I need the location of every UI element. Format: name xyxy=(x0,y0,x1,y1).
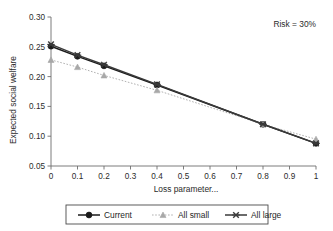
series-all-large xyxy=(47,42,320,147)
legend-label: All small xyxy=(178,210,209,220)
data-point-marker xyxy=(154,87,160,93)
chart-canvas: 0.050.100.150.200.250.30 00.10.20.30.40.… xyxy=(0,0,333,231)
y-axis-ticks: 0.050.100.150.200.250.30 xyxy=(29,13,51,171)
axes-group xyxy=(51,17,316,166)
x-tick-label: 0.9 xyxy=(284,172,296,181)
data-point-marker xyxy=(48,57,54,63)
y-tick-label: 0.15 xyxy=(29,102,45,111)
x-tick-label: 1 xyxy=(314,172,319,181)
data-series-group xyxy=(47,42,320,147)
y-tick-label: 0.30 xyxy=(29,13,45,22)
x-axis-ticks: 00.10.20.30.40.50.60.70.80.91 xyxy=(49,166,319,181)
risk-annotation: Risk = 30% xyxy=(273,19,316,29)
legend-items-group: CurrentAll smallAll large xyxy=(78,210,282,220)
legend: CurrentAll smallAll large xyxy=(66,205,282,224)
y-tick-label: 0.10 xyxy=(29,132,45,141)
y-tick-label: 0.05 xyxy=(29,162,45,171)
x-tick-label: 0.3 xyxy=(125,172,137,181)
x-tick-label: 0.6 xyxy=(204,172,216,181)
x-tick-label: 0.7 xyxy=(231,172,243,181)
x-tick-label: 0.8 xyxy=(257,172,269,181)
x-tick-label: 0.5 xyxy=(178,172,190,181)
y-tick-label: 0.25 xyxy=(29,43,45,52)
legend-label: Current xyxy=(104,210,133,220)
series-line xyxy=(51,44,316,143)
x-tick-label: 0.2 xyxy=(98,172,110,181)
series-line xyxy=(51,60,316,139)
data-point-marker xyxy=(101,72,107,78)
x-tick-label: 0.1 xyxy=(72,172,84,181)
legend-marker xyxy=(86,212,92,218)
y-tick-label: 0.20 xyxy=(29,73,45,82)
x-tick-label: 0.4 xyxy=(151,172,163,181)
legend-label: All large xyxy=(251,210,282,220)
data-point-marker xyxy=(75,64,81,70)
chart-container: 0.050.100.150.200.250.30 00.10.20.30.40.… xyxy=(0,0,333,231)
x-axis-title: Loss parameter... xyxy=(154,184,219,194)
y-axis-title: Expected social welfare xyxy=(8,56,18,144)
x-tick-label: 0 xyxy=(49,172,54,181)
